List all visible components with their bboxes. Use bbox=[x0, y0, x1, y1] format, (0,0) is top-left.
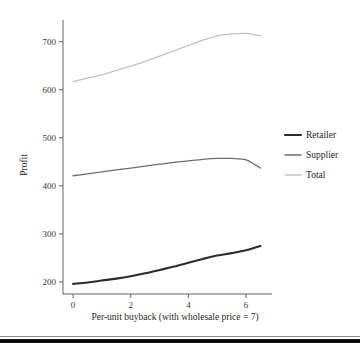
chart-legend: RetailerSupplierTotal bbox=[285, 130, 339, 180]
y-tick-label: 200 bbox=[43, 277, 57, 287]
legend-label-retailer: Retailer bbox=[306, 130, 337, 140]
profit-vs-buyback-line-chart: 200300400500600700 0246 Profit Per-unit … bbox=[0, 0, 360, 343]
series-line-retailer bbox=[73, 246, 260, 284]
y-tick-label: 600 bbox=[43, 85, 57, 95]
x-tick-label: 6 bbox=[244, 300, 249, 310]
y-axis-title: Profit bbox=[19, 154, 29, 176]
series-lines bbox=[73, 33, 260, 284]
y-tick-label: 400 bbox=[43, 181, 57, 191]
plot-area: 200300400500600700 0246 bbox=[43, 20, 273, 310]
y-tick-label: 300 bbox=[43, 229, 57, 239]
x-axis-ticks: 0246 bbox=[71, 294, 249, 310]
x-tick-label: 2 bbox=[128, 300, 133, 310]
y-axis-ticks: 200300400500600700 bbox=[43, 37, 64, 287]
legend-label-total: Total bbox=[306, 170, 326, 180]
page-bottom-edge bbox=[0, 339, 360, 343]
series-line-supplier bbox=[73, 158, 260, 175]
series-line-total bbox=[73, 33, 260, 81]
y-tick-label: 500 bbox=[43, 133, 57, 143]
x-tick-label: 0 bbox=[71, 300, 76, 310]
page-edge-rule bbox=[0, 336, 360, 337]
x-axis-title: Per-unit buyback (with wholesale price =… bbox=[91, 312, 258, 323]
chart-figure: 200300400500600700 0246 Profit Per-unit … bbox=[0, 0, 360, 343]
x-tick-label: 4 bbox=[186, 300, 191, 310]
legend-label-supplier: Supplier bbox=[306, 150, 339, 160]
y-tick-label: 700 bbox=[43, 37, 57, 47]
